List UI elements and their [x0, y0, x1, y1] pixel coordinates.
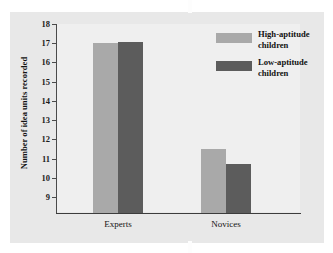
- y-tick-mark: [52, 62, 57, 63]
- chart-screenshot: 1817161514131211109 Number of idea units…: [0, 0, 333, 253]
- legend-label-line2: children: [258, 68, 288, 78]
- y-tick-label: 9: [28, 193, 50, 201]
- bar-experts-high-aptitude: [93, 43, 118, 213]
- legend-label-line1: Low-aptitude: [258, 57, 308, 67]
- y-tick-mark: [52, 43, 57, 44]
- y-tick-mark: [52, 82, 57, 83]
- y-tick-label: 18: [28, 20, 50, 28]
- x-category-label-novices: Novices: [186, 219, 266, 229]
- bar-novices-low-aptitude: [226, 164, 251, 213]
- bar-experts-low-aptitude: [118, 42, 143, 213]
- scan-artifact: [188, 0, 192, 13]
- legend-label-low-aptitude: Low-aptitude children: [258, 57, 330, 78]
- y-tick-label: 14: [28, 97, 50, 105]
- scan-artifact: [188, 241, 192, 253]
- y-tick-label: 12: [28, 135, 50, 143]
- y-tick-mark: [52, 197, 57, 198]
- legend-label-line2: children: [258, 40, 288, 50]
- legend-label-line1: High-aptitude: [258, 29, 310, 39]
- legend-label-high-aptitude: High-aptitude children: [258, 29, 330, 50]
- legend-swatch-high-aptitude: [216, 33, 252, 43]
- x-category-label-experts: Experts: [78, 219, 158, 229]
- x-axis-line: [56, 213, 301, 214]
- y-tick-mark: [52, 120, 57, 121]
- legend-item-high-aptitude: High-aptitude children: [216, 31, 326, 59]
- y-tick-label: 15: [28, 78, 50, 86]
- y-tick-mark: [52, 139, 57, 140]
- y-axis-title: Number of idea units recorded: [19, 33, 29, 193]
- y-tick-mark: [52, 159, 57, 160]
- y-tick-mark: [52, 24, 57, 25]
- y-tick-label: 17: [28, 39, 50, 47]
- y-tick-label: 11: [28, 155, 50, 163]
- y-tick-label: 13: [28, 116, 50, 124]
- legend-swatch-low-aptitude: [216, 61, 252, 71]
- y-axis-line: [56, 24, 57, 214]
- y-tick-label: 16: [28, 58, 50, 66]
- legend-item-low-aptitude: Low-aptitude children: [216, 59, 326, 87]
- y-tick-mark: [52, 178, 57, 179]
- legend: High-aptitude children Low-aptitude chil…: [216, 31, 326, 87]
- y-tick-label: 10: [28, 174, 50, 182]
- y-tick-mark: [52, 101, 57, 102]
- bar-novices-high-aptitude: [201, 149, 226, 213]
